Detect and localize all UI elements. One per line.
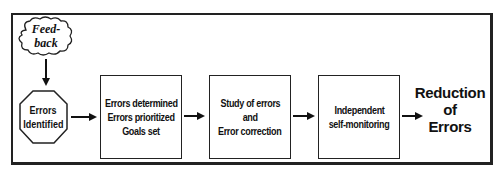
node-line: Errors prioritized	[107, 110, 174, 124]
node-line: Identified	[23, 117, 62, 131]
node-line: Errors	[23, 103, 62, 117]
outcome-line: of	[413, 101, 487, 118]
node-line: Errors determined	[105, 96, 178, 110]
node-line: Independent	[334, 103, 384, 117]
errors-determined-box: Errors determined Errors prioritized Goa…	[100, 75, 182, 159]
reduction-of-errors-label: Reduction of Errors	[413, 84, 487, 135]
feedback-line-1: Feed-	[19, 22, 73, 36]
feedback-line-2: back	[19, 36, 73, 50]
node-line: self-monitoring	[329, 117, 390, 131]
node-line: Error correction	[218, 124, 281, 138]
node-line: Study of errors	[220, 96, 280, 110]
feedback-label: Feed- back	[19, 22, 73, 50]
outcome-line: Errors	[413, 118, 487, 135]
errors-identified-label: Errors Identified	[23, 103, 62, 131]
node-line: and	[242, 110, 257, 124]
node-line: Goals set	[122, 124, 160, 138]
outcome-line: Reduction	[413, 84, 487, 101]
study-of-errors-box: Study of errors and Error correction	[209, 75, 291, 159]
self-monitoring-box: Independent self-monitoring	[318, 75, 400, 159]
